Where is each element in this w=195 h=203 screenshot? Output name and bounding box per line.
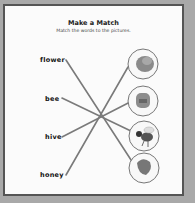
- line-bee: [62, 98, 133, 132]
- picture-hive: [128, 86, 158, 116]
- match-lines: [0, 0, 195, 203]
- picture-bee: [129, 121, 159, 151]
- bee-icon: [141, 133, 153, 142]
- line-honey: [66, 67, 128, 175]
- picture-flower: [128, 49, 158, 79]
- picture-honey: [129, 153, 159, 183]
